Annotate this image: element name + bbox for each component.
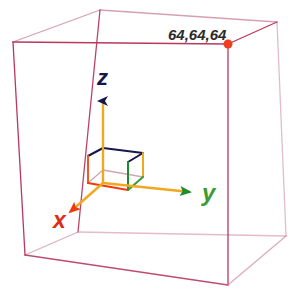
bbox-edge-left-vertical <box>13 42 25 255</box>
scene-svg: 64,64,64 z y x <box>0 0 288 296</box>
unitcube-hidden-edge-a <box>88 170 103 183</box>
bounding-box-wireframe <box>13 10 286 285</box>
unitcube-edge-top-left-diag <box>88 148 103 156</box>
bbox-edge-top-left-back <box>13 10 100 42</box>
bbox-edge-right-back-vertical <box>277 22 286 236</box>
unitcube-edge-top-back <box>103 148 143 153</box>
bbox-edge-top-front-right <box>228 22 277 44</box>
x-axis-arrow[interactable] <box>70 183 103 212</box>
bbox-edge-bottom-left-back <box>25 232 78 255</box>
scene-canvas[interactable]: 64,64,64 z y x <box>0 0 288 296</box>
corner-coordinate-label: 64,64,64 <box>168 26 227 43</box>
unitcube-edge-top-right-diag <box>128 153 143 162</box>
bbox-edge-top-back-right <box>100 10 277 22</box>
x-axis-label: x <box>51 207 67 233</box>
unitcube-hidden-edge-b <box>103 170 143 177</box>
z-axis-label: z <box>96 65 108 90</box>
bbox-edge-bottom-front-right <box>228 236 286 285</box>
bbox-edge-bottom-front-left <box>25 255 228 285</box>
bbox-edge-bottom-back-right <box>78 232 286 236</box>
y-axis-label: y <box>201 179 217 206</box>
